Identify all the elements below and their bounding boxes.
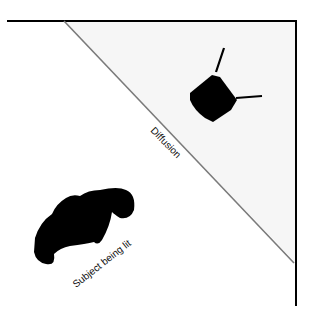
subject-label: Subject being lit (70, 237, 133, 289)
lighting-diagram: Diffusion Subject being lit (0, 0, 312, 321)
